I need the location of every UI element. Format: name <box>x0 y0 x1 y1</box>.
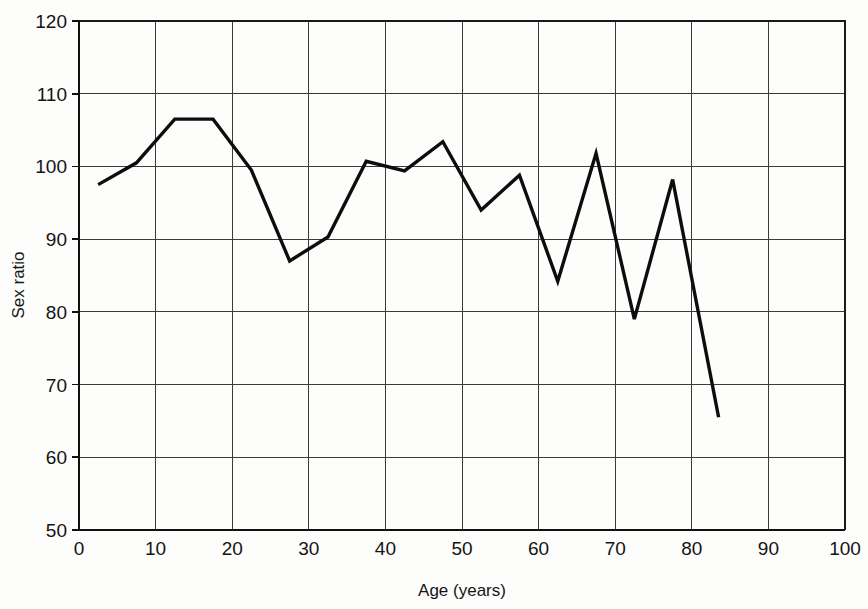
x-tick-label-60: 60 <box>528 538 549 559</box>
x-axis-tick-labels: 0102030405060708090100 <box>74 538 861 559</box>
y-tick-label-60: 60 <box>46 447 67 468</box>
y-tick-label-110: 110 <box>37 84 67 105</box>
y-tick-label-80: 80 <box>46 302 67 323</box>
y-tick-label-100: 100 <box>35 156 67 177</box>
y-tick-label-90: 90 <box>46 229 67 250</box>
y-axis-tick-marks <box>72 21 79 530</box>
sex-ratio-line-chart: 0102030405060708090100 50607080901001101… <box>0 0 868 609</box>
x-tick-label-100: 100 <box>829 538 861 559</box>
x-tick-label-80: 80 <box>681 538 702 559</box>
y-tick-label-50: 50 <box>46 520 67 541</box>
x-tick-label-10: 10 <box>145 538 166 559</box>
x-tick-label-0: 0 <box>74 538 85 559</box>
x-axis-title: Age (years) <box>418 581 506 600</box>
x-tick-label-70: 70 <box>605 538 626 559</box>
y-axis-title: Sex ratio <box>9 251 28 318</box>
y-tick-label-120: 120 <box>35 11 67 32</box>
x-tick-label-30: 30 <box>298 538 319 559</box>
x-tick-label-50: 50 <box>451 538 472 559</box>
x-tick-label-90: 90 <box>758 538 779 559</box>
y-tick-label-70: 70 <box>46 375 67 396</box>
y-axis-tick-labels: 5060708090100110120 <box>35 11 67 541</box>
chart-page: 0102030405060708090100 50607080901001101… <box>0 0 868 609</box>
x-tick-label-20: 20 <box>222 538 243 559</box>
x-tick-label-40: 40 <box>375 538 396 559</box>
